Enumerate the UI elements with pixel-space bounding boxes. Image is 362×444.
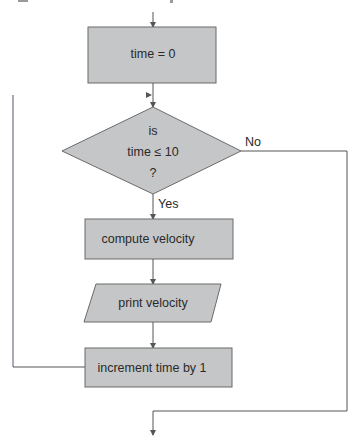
node-compute-velocity: compute velocity <box>85 219 233 259</box>
node-print-velocity: print velocity <box>84 284 221 322</box>
node-print-label: print velocity <box>118 296 188 310</box>
flowchart-diagram: time = 0 is time ≤ 10 ? No Yes compute v… <box>0 0 362 444</box>
decision-line-3: ? <box>150 166 157 180</box>
cut-off-header-remnant <box>18 0 173 3</box>
decision-line-2: time ≤ 10 <box>127 145 178 159</box>
node-compute-label: compute velocity <box>101 232 195 246</box>
no-label: No <box>245 135 261 149</box>
node-decision: is time ≤ 10 ? <box>62 107 241 194</box>
decision-line-1: is <box>148 124 157 138</box>
yes-label: Yes <box>158 197 178 211</box>
node-init-label: time = 0 <box>131 47 176 61</box>
node-increment-time: increment time by 1 <box>85 348 232 387</box>
node-increment-label: increment time by 1 <box>97 361 206 375</box>
node-init-time: time = 0 <box>88 27 216 83</box>
